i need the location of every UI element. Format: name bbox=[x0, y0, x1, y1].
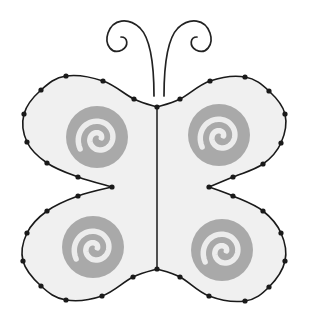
dot-point bbox=[130, 274, 135, 279]
dot-point bbox=[278, 140, 283, 145]
dot-point bbox=[154, 266, 159, 271]
dot-point bbox=[207, 78, 212, 83]
dot-point bbox=[20, 258, 25, 263]
spiral-disk bbox=[188, 104, 250, 166]
dot-point bbox=[131, 96, 136, 101]
dot-point bbox=[100, 78, 105, 83]
dot-point bbox=[99, 293, 104, 298]
spiral-disk bbox=[66, 106, 128, 168]
dot-point bbox=[266, 284, 271, 289]
dot-point bbox=[44, 160, 49, 165]
dot-point bbox=[109, 184, 114, 189]
dot-point bbox=[230, 193, 235, 198]
dot-point bbox=[177, 96, 182, 101]
antennae bbox=[107, 21, 211, 96]
dot-point bbox=[63, 73, 68, 78]
dot-point bbox=[266, 88, 271, 93]
dot-point bbox=[75, 174, 80, 179]
dot-point bbox=[44, 208, 49, 213]
butterfly-svg bbox=[0, 0, 309, 326]
spiral-upper-left-icon bbox=[66, 106, 128, 168]
dot-point bbox=[260, 208, 265, 213]
dot-point bbox=[38, 283, 43, 288]
butterfly-figure bbox=[0, 0, 309, 326]
dot-point bbox=[242, 74, 247, 79]
dot-point bbox=[278, 230, 283, 235]
dot-point bbox=[282, 258, 287, 263]
dot-point bbox=[154, 104, 159, 109]
spiral-upper-right-icon bbox=[188, 104, 250, 166]
left-antenna-icon bbox=[107, 21, 154, 96]
dot-point bbox=[206, 184, 211, 189]
dot-point bbox=[38, 87, 43, 92]
dot-point bbox=[75, 193, 80, 198]
dot-point bbox=[24, 139, 29, 144]
dot-point bbox=[242, 298, 247, 303]
dot-point bbox=[260, 161, 265, 166]
dot-point bbox=[24, 230, 29, 235]
dot-point bbox=[63, 297, 68, 302]
spiral-lower-right-icon bbox=[191, 219, 253, 281]
dot-point bbox=[21, 111, 26, 116]
dot-point bbox=[177, 274, 182, 279]
dot-point bbox=[206, 293, 211, 298]
spiral-disk bbox=[191, 219, 253, 281]
dot-point bbox=[282, 111, 287, 116]
spiral-disk bbox=[62, 216, 124, 278]
spiral-lower-left-icon bbox=[62, 216, 124, 278]
dot-point bbox=[230, 174, 235, 179]
